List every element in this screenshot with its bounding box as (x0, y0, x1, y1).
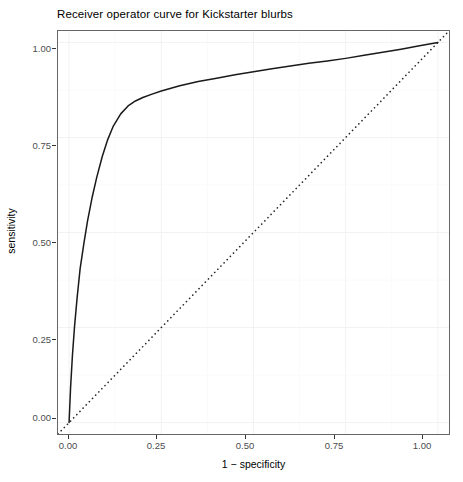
page-title: Receiver operator curve for Kickstarter … (57, 8, 293, 20)
x-tick-label: 1.00 (397, 440, 447, 451)
y-tick-mark (52, 339, 56, 340)
x-tick-label: 0.25 (131, 440, 181, 451)
y-tick-label: 0.75 (7, 140, 51, 151)
y-tick-mark (52, 48, 56, 49)
y-tick-mark (52, 145, 56, 146)
y-tick-mark (52, 418, 56, 419)
y-tick-label: 0.00 (7, 412, 51, 423)
plot-canvas (58, 31, 449, 434)
x-tick-label: 0.75 (309, 440, 359, 451)
roc-chart: Receiver operator curve for Kickstarter … (0, 0, 463, 482)
x-tick-label: 0.00 (43, 440, 93, 451)
x-tick-label: 0.50 (220, 440, 270, 451)
x-tick-mark (334, 435, 335, 439)
x-tick-mark (156, 435, 157, 439)
y-tick-mark (52, 242, 56, 243)
x-tick-mark (245, 435, 246, 439)
y-tick-label: 0.25 (7, 334, 51, 345)
y-axis-ticks: 1.00 0.75 0.50 0.25 0.00 (0, 0, 51, 482)
x-tick-mark (422, 435, 423, 439)
x-tick-mark (68, 435, 69, 439)
y-tick-label: 1.00 (7, 43, 51, 54)
plot-panel (57, 30, 450, 435)
y-tick-label: 0.50 (7, 237, 51, 248)
x-axis-title: 1 − specificity (57, 458, 450, 470)
